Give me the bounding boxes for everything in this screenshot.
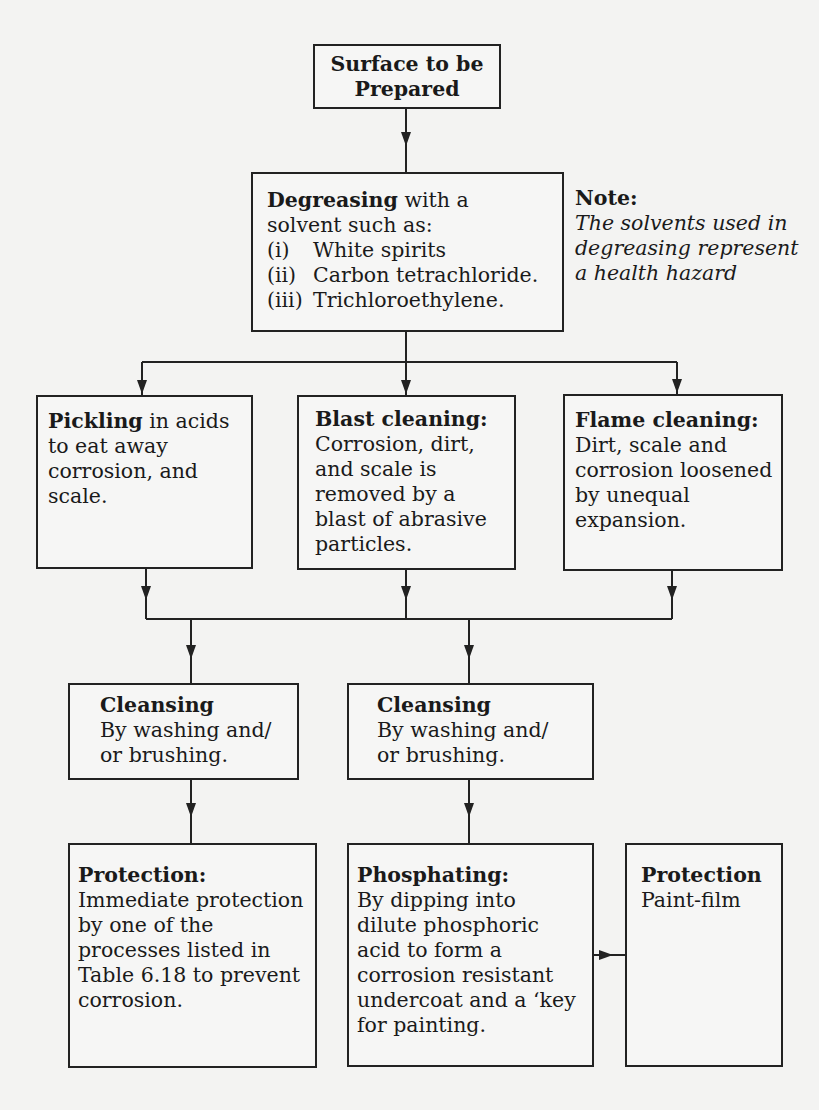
protection-paint-box: Protection Paint-film xyxy=(625,843,783,1067)
degreasing-box: Degreasing with a solvent such as: (i)Wh… xyxy=(251,172,564,332)
solvent-item: (i)White spirits xyxy=(267,238,554,263)
degreasing-title: Degreasing xyxy=(267,188,398,212)
phosphating-box: Phosphating: By dipping into dilute phos… xyxy=(347,843,594,1067)
degreasing-title-suffix: with a xyxy=(398,188,469,212)
pickling-box: Pickling in acids to eat away corrosion,… xyxy=(36,395,253,569)
blast-title: Blast cleaning: xyxy=(315,407,508,432)
surface-line1: Surface to be xyxy=(321,52,493,77)
solvent-item: (iii)Trichloroethylene. xyxy=(267,288,554,313)
blast-cleaning-box: Blast cleaning: Corrosion, dirt, and sca… xyxy=(297,395,516,570)
note-line: The solvents used in xyxy=(575,211,799,236)
phosphating-title: Phosphating: xyxy=(357,863,586,888)
surface-box: Surface to be Prepared xyxy=(313,44,501,109)
surface-line2: Prepared xyxy=(321,77,493,102)
health-hazard-note: Note: The solvents used in degreasing re… xyxy=(575,186,799,286)
solvent-item: (ii)Carbon tetrachloride. xyxy=(267,263,554,288)
protection-title: Protection: xyxy=(78,863,309,888)
protection-paint-title: Protection xyxy=(641,863,775,888)
note-title: Note: xyxy=(575,186,799,211)
cleansing-title: Cleansing xyxy=(377,693,586,718)
note-line: a health hazard xyxy=(575,261,799,286)
cleansing-title: Cleansing xyxy=(100,693,291,718)
pickling-title: Pickling xyxy=(48,409,143,433)
protection-immediate-box: Protection: Immediate protection by one … xyxy=(68,843,317,1068)
degreasing-line2: solvent such as: xyxy=(267,213,554,238)
cleansing-left-box: Cleansing By washing and/ or brushing. xyxy=(68,683,299,780)
flame-cleaning-box: Flame cleaning: Dirt, scale and corrosio… xyxy=(563,394,783,571)
note-line: degreasing represent xyxy=(575,236,799,261)
cleansing-right-box: Cleansing By washing and/ or brushing. xyxy=(347,683,594,780)
flame-title: Flame cleaning: xyxy=(575,408,775,433)
